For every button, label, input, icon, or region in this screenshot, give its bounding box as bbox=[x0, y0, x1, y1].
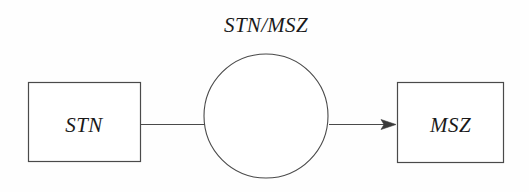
source-entity-label: STN bbox=[28, 112, 140, 138]
relation-circle[interactable] bbox=[204, 54, 328, 178]
target-entity-label: MSZ bbox=[397, 112, 504, 138]
relation-label: STN/MSZ bbox=[186, 12, 346, 39]
diagram-canvas: STN MSZ STN/MSZ bbox=[0, 0, 529, 192]
